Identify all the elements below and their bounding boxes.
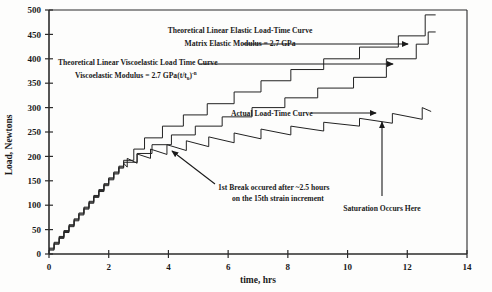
first-break-leader-arrow [172,151,215,184]
curve-actual-load-time-curve [49,108,431,251]
chart-container: 050100150200250300350400450500 024681012… [0,0,492,292]
y-tick-label: 200 [28,152,42,162]
actual-curve-annotation: Actual Load-Time Curve [231,109,313,118]
y-tick-label: 450 [28,30,42,40]
first-break-annotation-line2: on the 15th strain increment [232,194,324,203]
y-axis-title: Load, Newtons [4,114,14,175]
x-axis-title: time, hrs [240,275,276,285]
x-tick-label: 8 [286,262,291,272]
curve-theoretical-linear-elastic-load-time-curve [49,15,436,248]
y-tick-label: 500 [28,5,42,15]
y-tick-label: 350 [28,78,42,88]
x-tick-label: 2 [106,262,111,272]
viscoelastic-formula-prefix: Viscoelastic Modulus = 2.7 GPa(t/t [75,71,187,80]
y-tick-label: 300 [28,103,42,113]
x-tick-label: 0 [47,262,52,272]
elastic-annotation-line2: Matrix Elastic Modulus = 2.7 GPa [184,39,295,48]
x-tick-label: 14 [463,262,473,272]
saturation-annotation: Saturation Occurs Here [343,204,421,213]
y-tick-label: 0 [37,249,42,259]
elastic-annotation-line1: Theoretical Linear Elastic Load-Time Cur… [168,26,313,35]
viscoelastic-formula-superscript: -n [192,70,197,76]
x-tick-label: 4 [166,262,171,272]
first-break-annotation-line1: 1st Break occured after ~2.5 hours [218,183,330,192]
x-tick-label: 6 [226,262,231,272]
x-tick-label: 12 [403,262,413,272]
y-tick-label: 150 [28,176,42,186]
y-tick-label: 100 [28,200,42,210]
viscoelastic-annotation-line2: Viscoelastic Modulus = 2.7 GPa(t/to)-n [75,70,197,81]
y-tick-label: 400 [28,54,42,64]
data-curves [49,15,436,250]
y-tick-label: 50 [32,225,42,235]
viscoelastic-annotation-line1: Theoretical Linear Viscoelastic Load Tim… [58,58,218,67]
load-time-chart: 050100150200250300350400450500 024681012… [0,0,492,292]
x-tick-label: 10 [343,262,353,272]
y-tick-label: 250 [28,127,42,137]
